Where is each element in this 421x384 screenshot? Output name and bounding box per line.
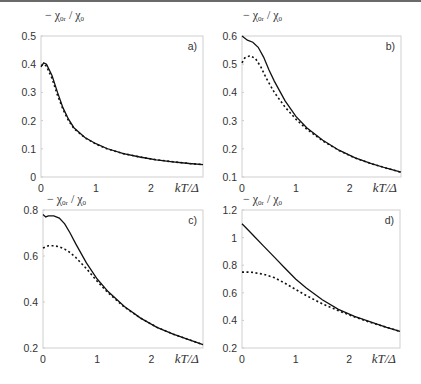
subplot-d: 0.20.40.60.811.2012kT/Δ− χ0r / χ0d) [222,192,400,366]
axes-frame [242,36,401,177]
x-tick-label: 2 [346,353,352,365]
dotted-curve [242,272,400,331]
y-tick-label: 0 [30,171,36,183]
y-tick-label: 0.6 [222,287,237,299]
y-tick-label: 0.2 [21,115,36,127]
y-tick-label: 1.2 [222,204,237,216]
x-tick-label: 2 [347,182,353,194]
axes-frame [43,210,203,348]
x-axis-label: kT/Δ [373,180,398,195]
y-tick-label: 0.5 [21,30,36,42]
panel-label: b) [386,40,395,52]
x-axis-label: kT/Δ [175,180,200,195]
x-tick-label: 1 [293,353,299,365]
y-tick-label: 0.2 [222,342,237,354]
y-tick-label: 0.4 [23,296,38,308]
panel-label: a) [188,40,197,52]
x-tick-label: 0 [40,353,46,365]
x-axis-label: kT/Δ [175,351,200,366]
subplot-c: 0.20.40.60.8012kT/Δ− χ0r / χ0c) [23,192,203,366]
figure-canvas: 00.10.20.30.40.5012kT/Δ− χ0r / χ0a)0.10.… [0,0,421,384]
subplot-a: 00.10.20.30.40.5012kT/Δ− χ0r / χ0a) [21,8,203,195]
dotted-curve [41,64,203,164]
x-tick-label: 1 [94,353,100,365]
y-tick-label: 0.4 [222,314,237,326]
x-tick-label: 0 [38,182,44,194]
y-tick-label: 0.4 [21,58,36,70]
panel-label: c) [188,214,197,226]
dotted-curve [242,56,401,173]
x-tick-label: 2 [148,182,154,194]
x-axis-label: kT/Δ [372,351,397,366]
x-tick-label: 0 [239,353,245,365]
solid-curve [43,215,203,345]
solid-curve [242,224,400,332]
y-tick-label: 0.1 [222,171,237,183]
y-tick-label: 0.6 [23,250,38,262]
y-tick-label: 0.8 [23,204,38,216]
y-tick-label: 0.6 [222,30,237,42]
x-tick-label: 1 [293,182,299,194]
y-axis-label: − χ0r / χ0 [45,8,85,23]
y-axis-label: − χ0r / χ0 [243,192,283,207]
y-tick-label: 0.3 [222,115,237,127]
subplot-b: 0.10.20.30.40.50.6012kT/Δ− χ0r / χ0b) [222,8,401,195]
panel-label: d) [385,214,394,226]
y-axis-label: − χ0r / χ0 [243,8,283,23]
axes-frame [41,36,203,177]
y-axis-label: − χ0r / χ0 [47,192,87,207]
y-tick-label: 1 [231,232,237,244]
y-tick-label: 0.5 [222,58,237,70]
x-tick-label: 1 [93,182,99,194]
y-tick-label: 0.8 [222,259,237,271]
solid-curve [41,63,203,165]
x-tick-label: 2 [149,353,155,365]
dotted-curve [43,246,203,345]
solid-curve [242,36,401,172]
y-tick-label: 0.2 [23,342,38,354]
axes-frame [242,210,400,348]
y-tick-label: 0.4 [222,86,237,98]
y-tick-label: 0.2 [222,143,237,155]
y-tick-label: 0.3 [21,86,36,98]
y-tick-label: 0.1 [21,143,36,155]
